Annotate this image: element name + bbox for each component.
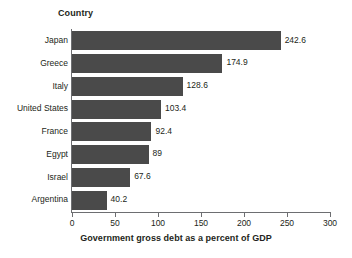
bar bbox=[72, 100, 161, 119]
bar-row: France92.4 bbox=[72, 121, 330, 144]
category-label: Argentina bbox=[32, 194, 68, 204]
x-tick-label: 200 bbox=[237, 218, 251, 228]
category-axis-title: Country bbox=[58, 8, 93, 18]
bar-chart: Country Japan242.6Greece174.9Italy128.6U… bbox=[0, 0, 352, 258]
bar bbox=[72, 191, 107, 210]
category-label: France bbox=[42, 126, 68, 136]
category-label: Israel bbox=[47, 172, 68, 182]
x-tick-label: 250 bbox=[280, 218, 294, 228]
bar-value-label: 89 bbox=[153, 148, 162, 158]
x-tick-label: 100 bbox=[151, 218, 165, 228]
bar-row: United States103.4 bbox=[72, 98, 330, 121]
bar-row: Italy128.6 bbox=[72, 76, 330, 99]
bar-value-label: 92.4 bbox=[155, 126, 172, 136]
x-tick-mark bbox=[115, 213, 116, 217]
bar-value-label: 174.9 bbox=[226, 57, 247, 67]
bar-row: Israel67.6 bbox=[72, 167, 330, 190]
x-tick-label: 50 bbox=[110, 218, 119, 228]
bar-value-label: 103.4 bbox=[165, 103, 186, 113]
bar-row: Argentina40.2 bbox=[72, 189, 330, 212]
x-tick-mark bbox=[287, 213, 288, 217]
x-tick-mark bbox=[158, 213, 159, 217]
bar bbox=[72, 168, 130, 187]
category-label: Italy bbox=[52, 81, 68, 91]
category-label: United States bbox=[17, 103, 68, 113]
bar-row: Greece174.9 bbox=[72, 53, 330, 76]
category-label: Japan bbox=[45, 35, 68, 45]
x-tick-label: 300 bbox=[323, 218, 337, 228]
x-tick-label: 150 bbox=[194, 218, 208, 228]
bar bbox=[72, 122, 151, 141]
bar bbox=[72, 54, 222, 73]
bar-value-label: 40.2 bbox=[111, 194, 128, 204]
bar bbox=[72, 145, 149, 164]
bar-row: Egypt89 bbox=[72, 144, 330, 167]
x-tick-mark bbox=[72, 213, 73, 217]
x-tick-label: 0 bbox=[70, 218, 75, 228]
bar-value-label: 67.6 bbox=[134, 171, 151, 181]
category-label: Egypt bbox=[46, 149, 68, 159]
category-label: Greece bbox=[40, 58, 68, 68]
bar-row: Japan242.6 bbox=[72, 30, 330, 53]
bar-value-label: 128.6 bbox=[187, 80, 208, 90]
bar bbox=[72, 31, 281, 50]
x-tick-mark bbox=[201, 213, 202, 217]
value-axis-title: Government gross debt as a percent of GD… bbox=[0, 233, 352, 243]
bar bbox=[72, 77, 183, 96]
x-tick-mark bbox=[244, 213, 245, 217]
bar-value-label: 242.6 bbox=[285, 35, 306, 45]
x-tick-mark bbox=[330, 213, 331, 217]
plot-area: Japan242.6Greece174.9Italy128.6United St… bbox=[72, 30, 330, 212]
